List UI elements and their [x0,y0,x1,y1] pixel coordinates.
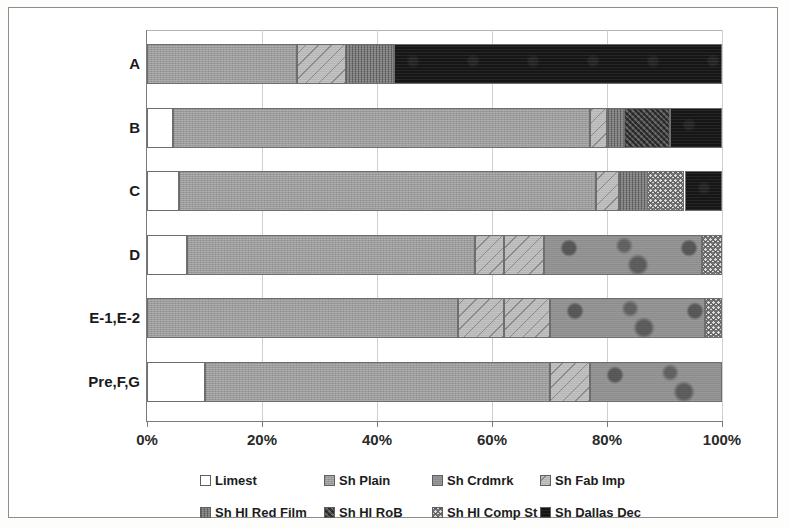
legend-swatch-icon [540,475,551,486]
bar-segment [619,171,648,211]
legend-item: Sh Plain [324,474,390,487]
scanned-page: 0%20%40%60%80%100% ABCDE-1,E-2Pre,F,G Li… [0,0,790,529]
legend-label: Sh Hl RoB [339,506,403,519]
legend-swatch-icon [324,475,335,486]
legend-swatch-icon [200,507,211,518]
legend-item: Sh Fab Imp [540,474,625,487]
legend-row: LimestSh PlainSh CrdmrkSh Fab Imp [200,470,620,491]
plot-top-border [146,30,723,31]
bar-segment [345,44,394,84]
bar-segment [147,171,179,211]
bar-row [147,235,722,275]
category-label: A [20,55,140,72]
bar-segment [624,108,670,148]
legend-swatch-icon [200,475,211,486]
category-label: B [20,119,140,136]
bar-row [147,44,722,84]
legend-label: Sh Hl Red Film [215,506,307,519]
legend-item: Sh Hl Comp St [432,506,537,519]
bar-segment [702,235,722,275]
bar-segment [550,362,590,402]
legend-swatch-icon [540,507,551,518]
bar-segment [550,298,705,338]
bar-segment [147,235,187,275]
x-axis-tick [262,421,263,427]
legend-swatch-icon [324,507,335,518]
bar-segment [544,235,702,275]
category-label: E-1,E-2 [20,309,140,326]
legend-label: Limest [215,474,257,487]
x-axis-tick [377,421,378,427]
x-axis-tick-label: 0% [112,431,182,448]
x-axis-tick [607,421,608,427]
x-axis-tick-label: 100% [687,431,757,448]
legend-label: Sh Crdmrk [447,474,513,487]
bar-segment [458,298,504,338]
x-axis-tick-label: 60% [457,431,527,448]
chart-legend: LimestSh PlainSh CrdmrkSh Fab Imp Sh Hl … [200,470,620,512]
bar-segment [205,362,550,402]
bar-segment [394,44,722,84]
x-axis-tick-label: 40% [342,431,412,448]
bar-segment [504,235,544,275]
x-axis-tick [492,421,493,427]
bar-segment [147,362,205,402]
bar-segment [705,298,722,338]
bar-row [147,108,722,148]
bar-segment [590,362,722,402]
legend-row: Sh Hl Red FilmSh Hl RoBSh Hl Comp StSh D… [200,491,620,512]
legend-item: Sh Dallas Dec [540,506,641,519]
bar-segment [297,44,346,84]
x-axis-tick-label: 20% [227,431,297,448]
legend-label: Sh Fab Imp [555,474,625,487]
bar-segment [685,171,722,211]
x-axis-tick [722,421,723,427]
legend-swatch-icon [432,475,443,486]
bar-row [147,171,722,211]
x-axis-line [146,421,723,422]
bar-segment [147,108,173,148]
category-label: D [20,246,140,263]
legend-item: Sh Hl Red Film [200,506,307,519]
gridline [722,30,723,421]
legend-swatch-icon [432,507,443,518]
bar-row [147,298,722,338]
bar-segment [504,298,550,338]
x-axis-tick-label: 80% [572,431,642,448]
bar-segment [187,235,475,275]
bar-segment [147,44,297,84]
bar-segment [596,171,619,211]
category-label: Pre,F,G [20,373,140,390]
legend-label: Sh Hl Comp St [447,506,537,519]
legend-item: Sh Crdmrk [432,474,513,487]
bar-segment [607,108,624,148]
bar-segment [647,171,684,211]
legend-item: Sh Hl RoB [324,506,403,519]
x-axis-tick [147,421,148,427]
legend-item: Limest [200,474,257,487]
category-label: C [20,182,140,199]
bar-segment [147,298,458,338]
bar-segment [590,108,607,148]
bar-segment [475,235,504,275]
bar-row [147,362,722,402]
legend-label: Sh Dallas Dec [555,506,641,519]
legend-label: Sh Plain [339,474,390,487]
bar-segment [179,171,596,211]
bar-segment [173,108,590,148]
bar-segment [670,108,722,148]
